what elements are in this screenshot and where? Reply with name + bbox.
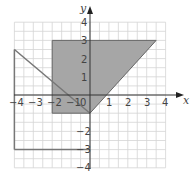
x-axis-label: x (183, 94, 190, 107)
y-tick-label: −3 (76, 144, 91, 155)
y-tick-label: 2 (81, 54, 87, 65)
y-axis-arrow-icon (87, 6, 93, 14)
y-tick-label: −2 (76, 126, 91, 137)
x-tick-label: −3 (28, 97, 43, 108)
x-tick-label: 1 (106, 97, 112, 108)
y-tick-label: −4 (76, 162, 91, 173)
y-tick-label: 3 (81, 35, 87, 46)
y-axis-label: y (79, 2, 87, 15)
coordinate-plane: x y −4 −3 −2 −1 0 1 2 3 4 4 3 2 1 −2 −3 … (0, 0, 191, 173)
x-tick-label: −4 (9, 97, 24, 108)
x-tick-label: −1 (66, 97, 81, 108)
x-tick-label: 4 (162, 97, 168, 108)
y-tick-label: 4 (81, 17, 87, 28)
x-tick-label: 3 (144, 97, 150, 108)
origin-label: 0 (80, 97, 86, 108)
x-tick-label: −2 (47, 97, 62, 108)
y-tick-label: 1 (81, 72, 87, 83)
x-tick-label: 2 (125, 97, 131, 108)
